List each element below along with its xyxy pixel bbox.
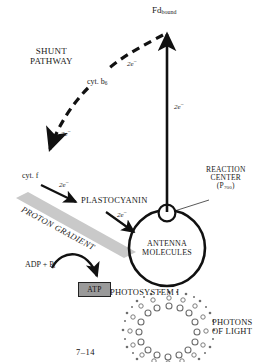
reaction-center-leader-line: [175, 200, 210, 211]
shunt-pathway-label: SHUNT PATHWAY: [30, 47, 73, 66]
reaction-center-label: REACTION CENTER (P700): [206, 166, 246, 191]
atp-box: ATP: [78, 282, 111, 297]
photosystem-i-diagram: Fdbound SHUNT PATHWAY cyt. b6 cyt. f PLA…: [0, 0, 270, 362]
photosystem-i-label: PHOTOSYSTEM I: [110, 288, 179, 297]
electron-label-cytf-plastocyanin: 2e−: [59, 179, 69, 190]
adp-phosphate-label: ADP + Pi: [25, 261, 55, 270]
fd-bound-label: Fdbound: [152, 6, 176, 16]
figure-caption: 7–14: [76, 347, 95, 357]
electron-label-plastocyanin-ps1: 2e−: [117, 209, 127, 220]
shunt-pathway-lower-dashed: [50, 88, 88, 149]
photons-of-light-label: PHOTONS OF LIGHT: [212, 318, 252, 336]
photons-burst: [122, 291, 216, 362]
cyt-f-label: cyt. f: [22, 172, 38, 181]
antenna-molecules-label: ANTENNA MOLECULES: [131, 240, 203, 257]
plastocyanin-label: PLASTOCYANIN: [81, 196, 147, 205]
arrow-adp-to-atp: [52, 254, 97, 276]
electron-label-ps1-fd: 2e−: [174, 101, 184, 112]
cyt-b6-label: cyt. b6: [87, 78, 107, 87]
electron-label-shunt-upper: 2e−: [127, 58, 137, 69]
atp-label: ATP: [87, 285, 102, 294]
electron-label-shunt-lower: 2e−: [61, 128, 71, 139]
